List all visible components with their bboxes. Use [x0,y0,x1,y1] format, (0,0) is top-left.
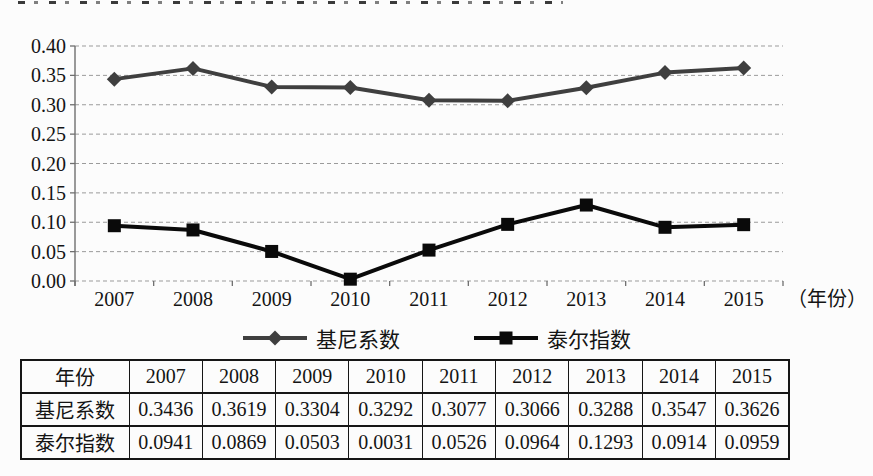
table-cell: 0.3304 [276,393,349,426]
table-cell: 0.3077 [422,393,495,426]
x-tick-label: 2008 [173,288,213,310]
square-marker [580,199,593,212]
table-header-cell: 2013 [569,360,642,393]
series-基尼系数 [107,60,751,108]
table-cell: 0.0031 [349,426,422,459]
x-tick-label: 2007 [94,288,134,310]
square-marker [108,219,121,232]
table-cell: 0.1293 [569,426,642,459]
diamond-marker [736,60,751,75]
data-table: 年份200720082009201020112012201320142015基尼… [20,359,790,460]
x-tick-label: 2013 [566,288,606,310]
y-tick-label: 0.40 [31,35,66,57]
legend-item-gini: 基尼系数 [243,323,400,353]
table-cell: 0.3626 [716,393,789,426]
table-header-cell: 2014 [642,360,715,393]
table-header-cell: 2008 [202,360,275,393]
table-cell: 0.3436 [129,393,202,426]
scanned-chart-page: 0.400.350.300.250.200.150.100.050.002007… [0,0,873,476]
y-tick-label: 0.00 [31,270,66,292]
y-tick-label: 0.15 [31,182,66,204]
diamond-marker [658,65,673,80]
theil-line-square-icon [474,329,538,347]
legend-label-gini: 基尼系数 [316,323,400,353]
y-tick-label: 0.05 [31,241,66,263]
x-axis-unit-label: （年份） [787,288,867,310]
square-marker [265,245,278,258]
table-header-cell: 2007 [129,360,202,393]
table-header-cell: 2010 [349,360,422,393]
square-marker [344,273,357,286]
x-tick-label: 2015 [724,288,764,310]
square-marker [187,223,200,236]
square-marker [423,244,436,257]
table-cell: 0.0941 [129,426,202,459]
table-header-cell: 2012 [496,360,569,393]
table-cell: 0.3288 [569,393,642,426]
series-泰尔指数 [108,199,750,286]
x-tick-label: 2014 [645,288,685,310]
table-cell: 0.0959 [716,426,789,459]
chart-legend: 基尼系数 泰尔指数 [0,323,873,353]
y-tick-label: 0.35 [31,64,66,86]
row-header-cell: 年份 [21,360,129,393]
table-cell: 0.0964 [496,426,569,459]
table-header-cell: 2009 [276,360,349,393]
diamond-marker [422,93,437,108]
legend-item-theil: 泰尔指数 [474,323,631,353]
x-tick-label: 2011 [409,288,448,310]
table-cell: 0.3547 [642,393,715,426]
y-tick-label: 0.10 [31,211,66,233]
table-cell: 0.0503 [276,426,349,459]
diamond-marker [107,72,122,87]
diamond-marker [500,93,515,108]
table-cell: 0.3292 [349,393,422,426]
y-tick-label: 0.20 [31,153,66,175]
diamond-marker [186,61,201,76]
table-cell: 0.0914 [642,426,715,459]
row-header-cell: 基尼系数 [21,393,129,426]
square-marker [659,221,672,234]
x-tick-label: 2012 [488,288,528,310]
table-header-row: 年份200720082009201020112012201320142015 [21,360,789,393]
y-tick-label: 0.30 [31,94,66,116]
legend-label-theil: 泰尔指数 [547,323,631,353]
table-header-cell: 2015 [716,360,789,393]
x-tick-label: 2010 [330,288,370,310]
table-cell: 0.0526 [422,426,495,459]
table-row: 泰尔指数0.09410.08690.05030.00310.05260.0964… [21,426,789,459]
table-header-cell: 2011 [422,360,495,393]
square-marker [501,218,514,231]
square-marker [737,218,750,231]
table-row: 基尼系数0.34360.36190.33040.32920.30770.3066… [21,393,789,426]
gini-line-diamond-icon [243,329,307,347]
axis-labels: 0.400.350.300.250.200.150.100.050.002007… [31,35,867,310]
diamond-marker [343,80,358,95]
table-cell: 0.3619 [202,393,275,426]
diamond-marker [579,80,594,95]
diamond-marker [264,79,279,94]
table-cell: 0.3066 [496,393,569,426]
y-tick-label: 0.25 [31,123,66,145]
row-header-cell: 泰尔指数 [21,426,129,459]
line-chart: 0.400.350.300.250.200.150.100.050.002007… [0,4,873,318]
x-tick-label: 2009 [252,288,292,310]
table-cell: 0.0869 [202,426,275,459]
